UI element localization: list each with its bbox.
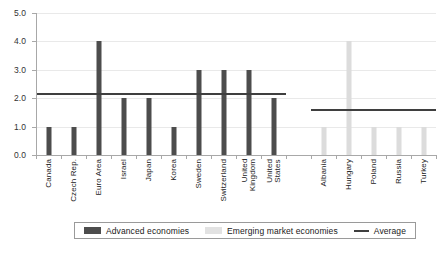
x-axis-tick-label: Sweden — [194, 159, 202, 189]
x-axis-tick — [136, 155, 137, 159]
bar-chart: 0.01.02.03.04.05.0 CanadaCzech Rep.Euro … — [0, 0, 447, 254]
legend-item-emerging-market-economies: Emerging market economies — [205, 226, 338, 236]
bar — [271, 98, 276, 155]
x-axis-tick — [111, 155, 112, 159]
x-axis-tick-label: Hungary — [344, 159, 352, 190]
x-axis-tick — [211, 155, 212, 159]
x-axis-tick-label: Turkey — [419, 159, 427, 184]
x-axis-tick — [36, 155, 37, 159]
x-axis-tick-label: Israel — [119, 159, 127, 179]
y-axis-tick: 4.0 — [32, 41, 36, 42]
gridline — [36, 13, 436, 14]
x-axis-tick — [61, 155, 62, 159]
bar — [196, 70, 201, 155]
x-axis-tick — [436, 155, 437, 159]
bar — [146, 98, 151, 155]
x-axis-tick — [336, 155, 337, 159]
x-axis-tick — [286, 155, 287, 159]
legend-swatch-icon-emerging — [205, 227, 222, 234]
x-axis-tick-label: Czech Rep. — [69, 159, 77, 202]
chart-legend: Advanced economies Emerging market econo… — [74, 222, 416, 239]
plot-area — [36, 13, 436, 155]
y-axis-tick-label: 5.0 — [14, 8, 26, 18]
x-axis-tick-label: Switzerland — [219, 159, 227, 201]
x-axis-tick — [86, 155, 87, 159]
x-axis-tick — [261, 155, 262, 159]
legend-label-average: Average — [374, 226, 406, 236]
y-axis-tick-label: 0.0 — [14, 150, 26, 160]
y-axis-tick: 3.0 — [32, 70, 36, 71]
x-axis-tick-label: Euro Area — [94, 159, 102, 195]
bar — [46, 127, 51, 155]
x-axis-tick — [236, 155, 237, 159]
x-axis-tick-label: Russia — [394, 159, 402, 184]
bar — [346, 41, 351, 155]
x-axis-tick — [161, 155, 162, 159]
y-axis-tick-label: 2.0 — [14, 93, 26, 103]
legend-item-advanced-economies: Advanced economies — [84, 226, 189, 236]
bar — [321, 127, 326, 155]
x-axis-tick-label: Canada — [44, 159, 52, 188]
legend-swatch-icon-advanced — [84, 227, 101, 234]
y-axis-tick-label: 1.0 — [14, 122, 26, 132]
x-axis-tick-label: Albania — [319, 159, 327, 186]
bar — [221, 70, 226, 155]
bar — [171, 127, 176, 155]
bar — [71, 127, 76, 155]
x-axis — [36, 155, 436, 156]
average-line — [36, 93, 286, 95]
x-axis-tick — [411, 155, 412, 159]
y-axis-tick-label: 4.0 — [14, 36, 26, 46]
bar — [121, 98, 126, 155]
x-axis-tick-label: Poland — [369, 159, 377, 185]
y-axis-tick: 5.0 — [32, 13, 36, 14]
legend-item-average: Average — [354, 226, 406, 236]
y-axis: 0.01.02.03.04.05.0 — [36, 13, 37, 155]
x-axis-tick — [186, 155, 187, 159]
x-axis-tick-label: United Kingdom — [240, 159, 256, 191]
y-axis-tick-label: 3.0 — [14, 65, 26, 75]
legend-label-advanced: Advanced economies — [106, 226, 189, 236]
legend-line-icon-average — [354, 230, 369, 232]
bar — [421, 127, 426, 155]
x-axis-tick-label: Japan — [144, 159, 152, 181]
x-axis-tick — [386, 155, 387, 159]
legend-label-emerging: Emerging market economies — [227, 226, 338, 236]
x-axis-tick — [361, 155, 362, 159]
y-axis-tick: 1.0 — [32, 127, 36, 128]
bar — [396, 127, 401, 155]
x-axis-tick-label: Korea — [169, 159, 177, 181]
average-line — [311, 109, 436, 111]
bar — [96, 41, 101, 155]
bar — [246, 70, 251, 155]
bar — [371, 127, 376, 155]
x-axis-tick-label: United States — [265, 159, 281, 183]
x-axis-tick — [311, 155, 312, 159]
y-axis-tick: 2.0 — [32, 98, 36, 99]
